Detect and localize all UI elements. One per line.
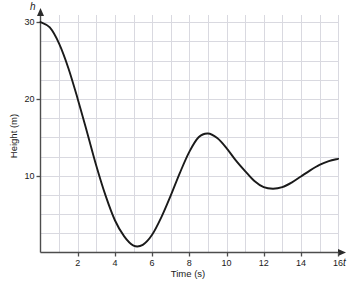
plot-area (0, 0, 351, 284)
x-tick-label: 6 (150, 258, 155, 268)
y-tick-label: 20 (21, 94, 35, 104)
x-tick-label: 2 (75, 258, 80, 268)
x-axis-symbol: t (343, 257, 346, 268)
x-tick-label: 12 (259, 258, 269, 268)
axis-ticks (37, 23, 339, 257)
height-time-chart: 246810121416 102030 h t Time (s) Height … (0, 0, 351, 284)
y-tick-label: 30 (21, 17, 35, 27)
x-tick-label: 10 (221, 258, 231, 268)
y-axis-symbol: h (30, 1, 36, 12)
y-tick-label: 10 (21, 171, 35, 181)
y-axis-arrow-icon (37, 8, 44, 16)
y-axis-title: Height (m) (8, 101, 19, 171)
x-tick-label: 16 (333, 258, 343, 268)
x-tick-label: 14 (296, 258, 306, 268)
axis-lines (37, 8, 346, 256)
x-tick-label: 8 (187, 258, 192, 268)
grid-lines (41, 15, 339, 253)
x-tick-label: 4 (112, 258, 117, 268)
x-axis-arrow-icon (338, 249, 346, 256)
x-axis-title: Time (s) (171, 268, 205, 279)
